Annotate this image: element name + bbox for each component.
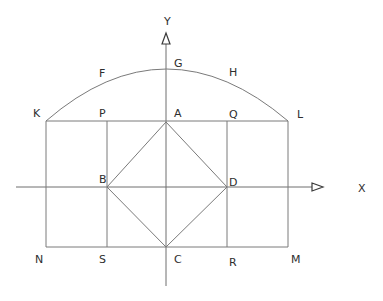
label-point-R: R [229,256,237,269]
label-point-Q: Q [229,108,238,121]
label-point-K: K [33,107,41,120]
label-point-N: N [35,253,43,266]
label-point-M: M [291,253,301,266]
label-point-C: C [174,253,182,266]
label-point-D: D [229,176,237,189]
label-point-G: G [174,57,183,70]
label-y-axis: Y [163,15,171,28]
label-point-H: H [229,66,237,79]
square-ADCB [107,122,227,247]
label-point-P: P [99,107,106,120]
geometry-diagram: Y X G F H K P A Q L B D N S C R M [0,0,383,301]
label-point-A: A [174,107,182,120]
label-x-axis: X [358,182,366,195]
arc-KGL [46,69,288,121]
x-axis-arrow-icon [312,183,323,191]
y-axis-arrow-icon [162,33,170,44]
label-point-S: S [99,253,106,266]
label-point-B: B [99,173,107,186]
label-point-F: F [99,67,105,80]
label-point-L: L [297,108,304,121]
